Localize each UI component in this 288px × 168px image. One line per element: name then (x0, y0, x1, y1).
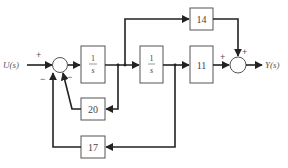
gain-11-label: 11 (197, 60, 207, 71)
integrator-block-1: 1 s (81, 46, 105, 83)
int2-denominator: s (150, 66, 153, 75)
sum1-minus-sign-20: − (67, 72, 72, 82)
wire-17-to-sum1 (53, 73, 81, 147)
integrator-block-2: 1 s (140, 46, 163, 83)
summing-junction-1 (53, 58, 68, 73)
wire-14-to-sum2 (213, 19, 238, 56)
wire-to-gain-20 (106, 65, 118, 109)
gain-14-label: 14 (197, 14, 207, 25)
int1-denominator: s (91, 66, 94, 75)
input-label: U(s) (3, 60, 19, 70)
gain-block-20: 20 (81, 98, 105, 120)
gain-block-17: 17 (81, 136, 105, 158)
sum2-plus-sign-left: + (220, 52, 225, 62)
sum2-plus-sign-top: + (242, 47, 247, 57)
sum1-plus-sign: + (36, 50, 41, 60)
block-diagram: U(s) + − − 1 s 14 + 20 1 s (0, 0, 288, 168)
int1-numerator: 1 (91, 54, 95, 63)
sum1-minus-sign-17: − (40, 74, 45, 84)
gain-block-11: 11 (190, 46, 213, 83)
int2-numerator: 1 (150, 54, 154, 63)
summing-junction-2 (230, 57, 246, 73)
gain-20-label: 20 (88, 104, 98, 115)
output-label: Y(s) (265, 60, 280, 70)
gain-17-label: 17 (88, 142, 98, 153)
gain-block-14: 14 (190, 8, 213, 30)
